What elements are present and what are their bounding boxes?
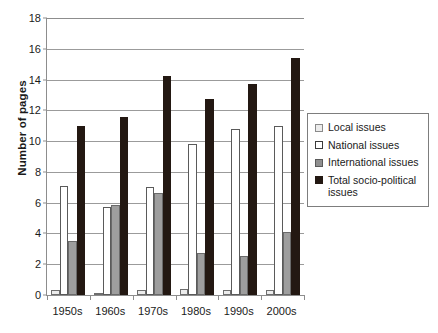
- legend-item[interactable]: Local issues: [315, 121, 422, 134]
- plot-area: 024681012141618: [46, 18, 304, 296]
- bar-international[interactable]: [154, 193, 163, 295]
- y-tick-label: 14: [29, 74, 41, 86]
- bar-group: [218, 18, 261, 295]
- x-axis-label: 1980s: [181, 305, 211, 317]
- bar-national[interactable]: [146, 187, 155, 295]
- x-tick-mark: [133, 295, 134, 300]
- x-axis-label: 2000s: [267, 305, 297, 317]
- chart-legend: Local issuesNational issuesInternational…: [307, 113, 429, 207]
- y-tick-label: 2: [35, 258, 41, 270]
- legend-swatch-national-icon: [315, 141, 323, 149]
- bar-local[interactable]: [94, 293, 103, 295]
- x-tick-mark: [90, 295, 91, 300]
- x-tick-mark: [176, 295, 177, 300]
- bar-national[interactable]: [274, 126, 283, 295]
- y-tick-label: 0: [35, 289, 41, 301]
- bar-group: [261, 18, 304, 295]
- bar-national[interactable]: [231, 129, 240, 295]
- x-axis-label: 1970s: [138, 305, 168, 317]
- bar-group: [90, 18, 133, 295]
- bar-total[interactable]: [120, 117, 129, 296]
- bar-chart: Number of pages 024681012141618 Local is…: [0, 0, 438, 333]
- y-tick-label: 10: [29, 135, 41, 147]
- bar-international[interactable]: [197, 253, 206, 295]
- bar-local[interactable]: [266, 290, 275, 295]
- bar-local[interactable]: [180, 289, 189, 295]
- bar-local[interactable]: [223, 290, 232, 295]
- y-axis-title: Number of pages: [16, 58, 28, 198]
- bar-total[interactable]: [163, 76, 172, 295]
- x-tick-mark: [218, 295, 219, 300]
- y-tick-label: 6: [35, 197, 41, 209]
- legend-swatch-total-icon: [315, 176, 323, 184]
- legend-label: National issues: [328, 139, 399, 152]
- bar-national[interactable]: [188, 144, 197, 295]
- bar-group: [176, 18, 219, 295]
- y-tick-label: 8: [35, 166, 41, 178]
- bar-local[interactable]: [51, 290, 60, 295]
- bar-local[interactable]: [137, 290, 146, 295]
- x-tick-mark: [261, 295, 262, 300]
- legend-label: International issues: [328, 156, 418, 169]
- legend-item[interactable]: Total socio-political issues: [315, 174, 422, 199]
- legend-swatch-local-icon: [315, 124, 323, 132]
- x-axis-label: 1990s: [224, 305, 254, 317]
- bar-total[interactable]: [77, 126, 86, 295]
- x-tick-mark: [47, 295, 48, 300]
- legend-label: Local issues: [328, 121, 386, 134]
- legend-item[interactable]: National issues: [315, 139, 422, 152]
- bar-international[interactable]: [68, 241, 77, 295]
- plot-inner: 024681012141618: [47, 18, 304, 295]
- bar-total[interactable]: [248, 84, 257, 295]
- bar-international[interactable]: [240, 256, 249, 295]
- legend-item[interactable]: International issues: [315, 156, 422, 169]
- bar-international[interactable]: [283, 232, 292, 295]
- legend-label: Total socio-political issues: [328, 174, 422, 199]
- y-tick-label: 4: [35, 227, 41, 239]
- y-tick-label: 16: [29, 43, 41, 55]
- bar-international[interactable]: [111, 205, 120, 295]
- bar-total[interactable]: [205, 99, 214, 295]
- bar-group: [133, 18, 176, 295]
- x-axis-label: 1960s: [95, 305, 125, 317]
- legend-swatch-international-icon: [315, 159, 323, 167]
- bar-group: [47, 18, 90, 295]
- y-tick-label: 18: [29, 12, 41, 24]
- bar-national[interactable]: [60, 186, 69, 295]
- bar-total[interactable]: [291, 58, 300, 295]
- x-tick-mark: [304, 295, 305, 300]
- y-tick-label: 12: [29, 104, 41, 116]
- x-axis-label: 1950s: [52, 305, 82, 317]
- bar-national[interactable]: [103, 207, 112, 295]
